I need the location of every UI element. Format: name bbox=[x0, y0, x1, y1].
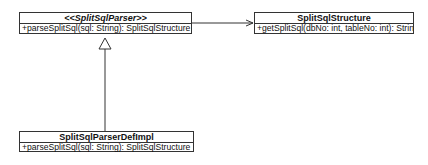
realization-edge[interactable] bbox=[99, 38, 111, 131]
association-edge[interactable] bbox=[192, 20, 253, 26]
relation-lines bbox=[0, 0, 428, 165]
hollow-triangle-arrowhead-icon bbox=[99, 38, 111, 49]
